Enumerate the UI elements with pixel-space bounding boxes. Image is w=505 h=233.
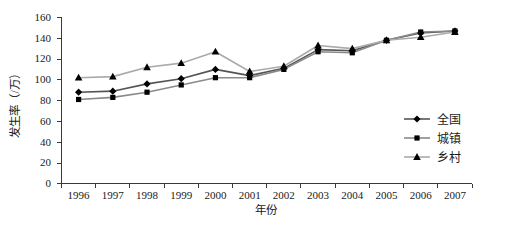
x-axis-ticks-and-labels: 1996199719981999200020012002200320042005… (62, 184, 473, 201)
x-tick-label: 1999 (170, 189, 193, 201)
data-point-marker (143, 80, 150, 87)
legend-label-城镇: 城镇 (437, 132, 461, 146)
x-tick-label: 2004 (341, 189, 364, 201)
legend-marker-diamond (413, 115, 420, 122)
y-tick-label: 160 (35, 11, 52, 23)
y-tick-label: 80 (40, 94, 52, 106)
data-point-marker (315, 49, 320, 54)
x-tick-label: 2000 (204, 189, 227, 201)
legend-label-乡村: 乡村 (437, 151, 461, 165)
y-tick-label: 100 (35, 73, 52, 85)
data-point-marker (75, 89, 82, 96)
x-tick-label: 2006 (410, 189, 433, 201)
y-axis-title: 发生率（/万） (8, 68, 21, 137)
x-tick-label: 1997 (102, 189, 125, 201)
chart-canvas: 发生率（/万） 160 140 120 100 80 60 40 20 0 (0, 0, 505, 233)
y-axis-ticks (57, 18, 62, 184)
x-tick-label: 2002 (273, 189, 295, 201)
series-line-城镇 (79, 31, 455, 99)
y-tick-label: 0 (46, 177, 52, 189)
y-tick-label: 140 (35, 32, 52, 44)
series-line-全国 (79, 31, 455, 92)
x-tick-label: 1998 (136, 189, 159, 201)
y-axis-tick-labels: 160 140 120 100 80 60 40 20 0 (35, 11, 52, 189)
data-point-marker (212, 66, 219, 73)
incidence-rate-line-chart: 发生率（/万） 160 140 120 100 80 60 40 20 0 (0, 0, 505, 233)
data-point-marker (280, 62, 288, 69)
legend-marker-square (414, 135, 419, 140)
x-axis-title: 年份 (255, 203, 278, 216)
data-point-marker (212, 48, 220, 55)
x-tick-label: 1996 (68, 189, 91, 201)
data-point-marker (76, 97, 81, 102)
y-tick-label: 20 (40, 156, 52, 168)
y-tick-label: 120 (35, 52, 52, 64)
data-series-group (75, 27, 459, 102)
data-point-marker (179, 82, 184, 87)
x-tick-label: 2003 (307, 189, 330, 201)
data-point-marker (178, 75, 185, 82)
y-tick-label: 60 (40, 115, 52, 127)
series-line-乡村 (79, 32, 455, 78)
data-point-marker (110, 95, 115, 100)
y-tick-label: 40 (40, 136, 52, 148)
data-point-marker (144, 90, 149, 95)
legend-label-全国: 全国 (437, 112, 461, 127)
x-tick-label: 2001 (239, 189, 261, 201)
data-point-marker (109, 88, 116, 95)
x-tick-label: 2005 (375, 189, 398, 201)
data-point-marker (213, 75, 218, 80)
chart-legend: 全国城镇乡村 (404, 112, 461, 165)
x-tick-label: 2007 (444, 189, 467, 201)
data-point-marker (247, 75, 252, 80)
